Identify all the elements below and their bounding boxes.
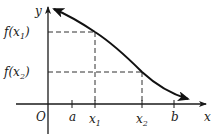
x-axis-label: x	[204, 110, 211, 124]
tick-label-b: b	[171, 110, 179, 124]
tick-label-x1: x1	[89, 112, 101, 128]
y-axis-label: y	[34, 4, 42, 18]
origin-label: O	[36, 110, 46, 124]
curve-right-segment	[95, 32, 188, 99]
tick-label-a: a	[69, 110, 76, 124]
function-graph: y x O a x1 x2 b f(x1) f(x2)	[0, 0, 216, 136]
curve-left-segment	[54, 9, 95, 32]
tick-label-fx2: f(x2)	[3, 65, 30, 81]
tick-label-fx1: f(x1)	[3, 25, 30, 41]
tick-label-x2: x2	[136, 112, 148, 128]
